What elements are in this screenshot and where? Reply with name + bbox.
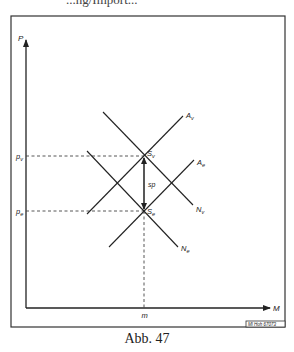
curve-ne bbox=[87, 151, 178, 247]
label-ae: Ae bbox=[196, 158, 205, 168]
outer-frame bbox=[11, 16, 285, 327]
x-axis-label: M bbox=[273, 304, 280, 313]
stamp-text: Ml Hoh 67073 bbox=[248, 322, 277, 327]
spread-label: sp bbox=[148, 181, 156, 189]
label-se: Se bbox=[147, 207, 155, 217]
figure: ...ng/Import... P M pv pe m bbox=[0, 0, 294, 352]
label-nv: Nv bbox=[196, 205, 205, 215]
supply-demand-diagram: P M pv pe m Av Ae Nv Ne sp Sv Se Ml Hoh … bbox=[0, 0, 294, 352]
y-axis-label: P bbox=[18, 34, 24, 43]
m-label: m bbox=[142, 311, 148, 320]
pv-label: pv bbox=[15, 152, 24, 162]
pe-label: pe bbox=[15, 207, 23, 217]
label-av: Av bbox=[185, 111, 195, 121]
curve-ae bbox=[109, 160, 194, 247]
label-sv: Sv bbox=[147, 149, 156, 159]
figure-caption: Abb. 47 bbox=[0, 331, 294, 347]
curve-av bbox=[87, 116, 183, 214]
label-ne: Ne bbox=[181, 244, 189, 254]
curve-nv bbox=[103, 112, 193, 205]
cut-off-heading-text: ...ng/Import... bbox=[66, 0, 138, 8]
